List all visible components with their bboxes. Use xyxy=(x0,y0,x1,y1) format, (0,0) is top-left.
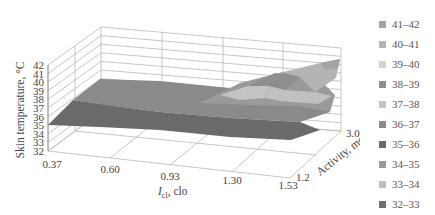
legend-item: 41–42 xyxy=(379,14,420,34)
legend-item: 39–40 xyxy=(379,54,420,74)
legend-label: 35–36 xyxy=(392,138,420,150)
legend-swatch-icon xyxy=(379,21,386,28)
x-tick: 0.60 xyxy=(100,163,120,175)
legend-item: 38–39 xyxy=(379,74,420,94)
legend-item: 32–33 xyxy=(379,194,420,214)
z-axis-label: Skin temperature, °C xyxy=(14,61,27,158)
legend-swatch-icon xyxy=(379,141,386,148)
legend-swatch-icon xyxy=(379,121,386,128)
surface xyxy=(48,59,340,140)
legend-item: 35–36 xyxy=(379,134,420,154)
z-tick: 32 xyxy=(33,145,44,157)
legend-swatch-icon xyxy=(379,81,386,88)
legend-swatch-icon xyxy=(379,61,386,68)
legend-label: 38–39 xyxy=(392,78,420,90)
legend-swatch-icon xyxy=(379,41,386,48)
legend-label: 40–41 xyxy=(392,38,420,50)
legend-item: 40–41 xyxy=(379,34,420,54)
surface-chart: 42 41 40 39 38 37 36 35 34 33 32 Skin te… xyxy=(0,0,360,215)
legend-item: 34–35 xyxy=(379,154,420,174)
z-axis: 42 41 40 39 38 37 36 35 34 33 32 Skin te… xyxy=(14,59,48,158)
legend-item: 33–34 xyxy=(379,174,420,194)
x-tick: 1.30 xyxy=(222,174,242,186)
legend-swatch-icon xyxy=(379,201,386,208)
legend: 41–42 40–41 39–40 38–39 37–38 36–37 35–3… xyxy=(379,14,420,214)
y-axis: 1.2 3.0 Activity, met xyxy=(296,127,360,183)
y-tick: 1.2 xyxy=(296,171,310,183)
x-tick: 0.93 xyxy=(160,170,180,182)
x-tick: 0.37 xyxy=(42,158,62,170)
legend-swatch-icon xyxy=(379,161,386,168)
legend-label: 36–37 xyxy=(392,118,420,130)
legend-item: 36–37 xyxy=(379,114,420,134)
legend-label: 39–40 xyxy=(392,58,420,70)
legend-label: 34–35 xyxy=(392,158,420,170)
legend-label: 32–33 xyxy=(392,198,420,210)
y-axis-label: Activity, met xyxy=(314,131,360,179)
x-axis-label: Icl, clo xyxy=(157,185,188,200)
legend-swatch-icon xyxy=(379,181,386,188)
legend-label: 37–38 xyxy=(392,98,420,110)
legend-label: 41–42 xyxy=(392,18,420,30)
legend-item: 37–38 xyxy=(379,94,420,114)
legend-label: 33–34 xyxy=(392,178,420,190)
legend-swatch-icon xyxy=(379,101,386,108)
